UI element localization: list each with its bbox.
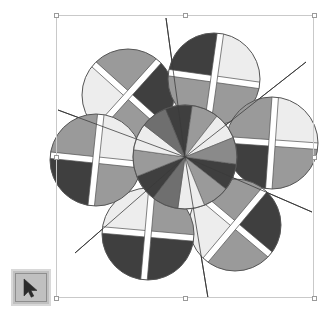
drawing-canvas[interactable] <box>0 0 333 321</box>
handle-bottom-right[interactable] <box>312 296 317 301</box>
handle-top-center[interactable] <box>183 13 188 18</box>
handle-middle-left[interactable] <box>54 155 59 160</box>
handle-bottom-left[interactable] <box>54 296 59 301</box>
arrow-pointer-icon <box>22 278 40 298</box>
handle-top-left[interactable] <box>54 13 59 18</box>
pointer-tool-button[interactable] <box>11 269 51 306</box>
handle-bottom-center[interactable] <box>183 296 188 301</box>
handle-middle-right[interactable] <box>312 155 317 160</box>
handle-top-right[interactable] <box>312 13 317 18</box>
